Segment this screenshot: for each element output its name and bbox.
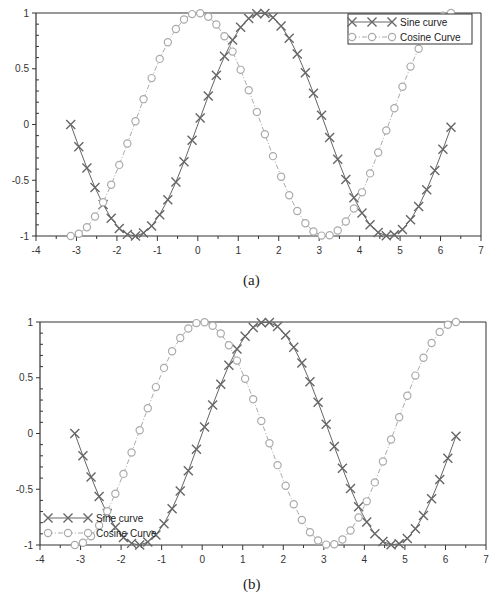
legend-label: Cosine Curve <box>400 32 461 43</box>
sine-marker <box>273 322 282 331</box>
cosine-line <box>71 13 451 236</box>
sine-marker <box>241 332 250 341</box>
cosine-marker <box>399 83 406 90</box>
sine-marker <box>212 71 221 80</box>
sine-marker <box>422 185 431 194</box>
cosine-marker <box>428 339 435 346</box>
cosine-marker <box>160 364 167 371</box>
sine-marker <box>87 472 96 481</box>
sine-marker <box>196 113 205 122</box>
cosine-marker <box>342 218 349 225</box>
sine-marker <box>297 359 306 368</box>
cosine-marker <box>294 207 301 214</box>
chart-b-plot: -4-3-2-101234567-1-0.500.51Sine curveCos… <box>0 300 503 605</box>
sine-marker <box>163 195 172 204</box>
cosine-marker <box>274 462 281 469</box>
sine-marker <box>411 524 420 533</box>
cosine-marker <box>132 118 139 125</box>
x-tick-label: 4 <box>357 245 363 256</box>
cosine-marker <box>148 75 155 82</box>
cosine-marker <box>75 230 82 237</box>
cosine-marker <box>99 199 106 206</box>
x-tick-label: 1 <box>235 245 241 256</box>
chart-panel-a: -4-3-2-101234567-1-0.500.51Sine curveCos… <box>0 0 503 300</box>
sine-marker <box>107 214 116 223</box>
cosine-marker <box>286 192 293 199</box>
legend-circle-marker-icon <box>388 33 395 40</box>
cosine-marker <box>302 220 309 227</box>
cosine-marker <box>436 328 443 335</box>
cosine-marker <box>347 527 354 534</box>
legend-label: Sine curve <box>400 17 448 28</box>
sine-marker <box>398 225 407 234</box>
x-tick-label: 7 <box>483 554 489 565</box>
sine-marker <box>435 475 444 484</box>
x-tick-label: 1 <box>240 554 246 565</box>
cosine-marker <box>124 140 131 147</box>
cosine-marker <box>197 10 204 17</box>
cosine-marker <box>152 384 159 391</box>
cosine-marker <box>245 87 252 94</box>
cosine-marker <box>420 354 427 361</box>
legend: Sine curveCosine Curve <box>348 14 473 44</box>
sine-marker <box>354 502 363 511</box>
sine-marker <box>281 330 290 339</box>
cosine-marker <box>339 536 346 543</box>
sine-marker <box>341 175 350 184</box>
sine-marker <box>95 492 104 501</box>
chart-a-caption: (a) <box>243 272 260 289</box>
cosine-marker <box>193 320 200 327</box>
sine-marker <box>277 21 286 30</box>
cosine-marker <box>404 392 411 399</box>
cosine-marker <box>225 342 232 349</box>
chart-panel-b: -4-3-2-101234567-1-0.500.51Sine curveCos… <box>0 300 503 605</box>
legend-label: Cosine Curve <box>96 528 157 539</box>
cosine-marker <box>375 149 382 156</box>
cosine-marker <box>282 482 289 489</box>
cosine-marker <box>209 322 216 329</box>
x-tick-label: 6 <box>443 554 449 565</box>
cosine-marker <box>412 372 419 379</box>
cosine-marker <box>266 440 273 447</box>
x-tick-label: 0 <box>195 245 201 256</box>
cosine-marker <box>116 161 123 168</box>
cosine-marker <box>290 501 297 508</box>
sine-marker <box>224 361 233 370</box>
x-tick-label: 3 <box>321 554 327 565</box>
y-tick-label: 0.5 <box>15 63 29 74</box>
sine-marker <box>74 142 83 151</box>
sine-marker <box>333 155 342 164</box>
cosine-marker <box>269 153 276 160</box>
sine-marker <box>349 193 358 202</box>
x-tick-label: -4 <box>36 554 45 565</box>
cosine-marker <box>188 11 195 18</box>
sine-marker <box>289 343 298 352</box>
sine-marker <box>357 208 366 217</box>
legend-circle-marker-icon <box>64 529 71 536</box>
x-tick-label: -1 <box>153 245 162 256</box>
sine-marker <box>430 166 439 175</box>
sine-marker <box>204 92 213 101</box>
cosine-marker <box>383 127 390 134</box>
sine-marker <box>305 377 314 386</box>
legend-label: Sine curve <box>96 513 144 524</box>
y-tick-label: -1 <box>24 540 33 551</box>
sine-marker <box>317 111 326 120</box>
sine-marker <box>236 23 245 32</box>
x-tick-label: -3 <box>76 554 85 565</box>
cosine-marker <box>444 321 451 328</box>
cosine-marker <box>140 96 147 103</box>
sine-marker <box>293 50 302 59</box>
legend-circle-marker-icon <box>84 529 91 536</box>
cosine-marker <box>379 458 386 465</box>
x-tick-label: 2 <box>276 245 282 256</box>
sine-marker <box>200 422 209 431</box>
cosine-marker <box>221 33 228 40</box>
sine-marker <box>82 163 91 172</box>
cosine-marker <box>205 13 212 20</box>
cosine-marker <box>172 25 179 32</box>
cosine-marker <box>241 375 248 382</box>
cosine-marker <box>185 325 192 332</box>
cosine-marker <box>164 39 171 46</box>
sine-marker <box>325 133 334 142</box>
